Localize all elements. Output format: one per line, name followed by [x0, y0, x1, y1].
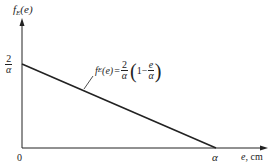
- equation-annotation: fE(e)= 2 α ( 1− e α ): [95, 60, 161, 81]
- y-axis-label: fE(e): [13, 4, 33, 17]
- eq-one-minus: 1−: [137, 66, 148, 76]
- y-tick-denominator: α: [5, 65, 12, 75]
- x-tick-alpha-label: α: [212, 152, 218, 163]
- annotation-leader-line: [84, 76, 93, 89]
- eq-frac1-den: α: [121, 71, 128, 81]
- eq-lparen: (: [130, 61, 137, 81]
- eq-equals: =: [114, 66, 120, 76]
- eq-rparen: ): [155, 61, 162, 81]
- y-axis-label-arg: (e): [20, 3, 32, 15]
- origin-label: 0: [17, 153, 22, 163]
- x-axis-label-sep: ,: [245, 151, 248, 162]
- x-axis-label-unit: cm: [250, 151, 262, 162]
- chart-canvas: [0, 0, 278, 165]
- y-tick-label: 2 α: [5, 54, 12, 75]
- y-axis-arrow-icon: [20, 18, 25, 26]
- x-axis-label: e, cm: [241, 152, 263, 162]
- eq-arg: (e): [102, 66, 113, 76]
- eq-frac2-den: α: [147, 71, 154, 81]
- x-axis-arrow-icon: [260, 146, 268, 151]
